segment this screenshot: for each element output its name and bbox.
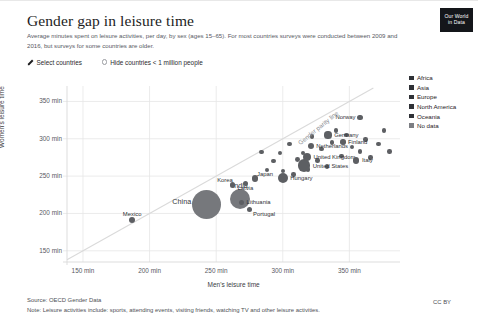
scatter-point-label: Portugal xyxy=(253,211,275,217)
license-text[interactable]: CC BY xyxy=(433,299,451,305)
scatter-point-label: Hungary xyxy=(290,175,312,181)
source-text: Source: OECD Gender Data xyxy=(27,296,320,306)
x-axis-tick-label: 250 min xyxy=(191,267,241,274)
y-axis-title: Women's leisure time xyxy=(0,86,5,148)
scatter-point-lithuania[interactable] xyxy=(239,200,244,205)
scatter-point-label: Mexico xyxy=(123,211,142,217)
scatter-point-label: China xyxy=(172,197,191,206)
plot-grid-layer xyxy=(0,0,478,325)
scatter-point-norway[interactable] xyxy=(357,115,362,120)
scatter-point-label: United Kingdom xyxy=(313,154,355,160)
scatter-point[interactable] xyxy=(271,159,275,163)
scatter-plot[interactable]: Women's leisure time Men's leisure time … xyxy=(0,0,478,325)
footer: Source: OECD Gender Data Note: Leisure a… xyxy=(27,296,320,315)
y-axis-tick-label: 250 min xyxy=(22,172,62,179)
y-axis-tick-label: 150 min xyxy=(22,247,62,254)
scatter-point[interactable] xyxy=(358,149,362,153)
x-axis-title: Men's leisure time xyxy=(208,281,260,288)
scatter-point-label: Korea xyxy=(217,177,233,183)
scatter-point[interactable] xyxy=(287,142,291,146)
scatter-point-finland[interactable] xyxy=(340,139,346,145)
scatter-point-label: Japan xyxy=(257,171,273,177)
note-text: Note: Leisure activities include: sports… xyxy=(27,306,320,316)
scatter-point-label: Finland xyxy=(348,139,367,145)
scatter-point-label: Lithuania xyxy=(247,199,271,205)
scatter-point-united-kingdom[interactable] xyxy=(303,153,311,161)
scatter-point-label: United States xyxy=(313,163,348,169)
x-axis-tick-label: 350 min xyxy=(324,267,374,274)
x-axis-tick-label: 150 min xyxy=(58,267,108,274)
y-axis-tick-label: 300 min xyxy=(22,135,62,142)
scatter-point-label: Italy xyxy=(362,157,373,163)
scatter-point[interactable] xyxy=(387,149,391,153)
y-axis-tick-label: 200 min xyxy=(22,209,62,216)
x-axis-tick-label: 200 min xyxy=(125,267,175,274)
scatter-point[interactable] xyxy=(259,150,263,154)
scatter-point-united-states[interactable] xyxy=(298,159,310,171)
scatter-point-netherlands[interactable] xyxy=(308,143,314,149)
y-axis-tick-label: 350 min xyxy=(22,97,62,104)
scatter-point-label: Latvia xyxy=(237,185,253,191)
x-axis-tick-label: 300 min xyxy=(258,267,308,274)
scatter-point-germany[interactable] xyxy=(324,131,331,138)
scatter-point[interactable] xyxy=(382,128,386,132)
chart-container: Gender gap in leisure time Average minut… xyxy=(0,0,478,325)
scatter-point-label: Germany xyxy=(334,132,358,138)
scatter-point[interactable] xyxy=(376,142,380,146)
